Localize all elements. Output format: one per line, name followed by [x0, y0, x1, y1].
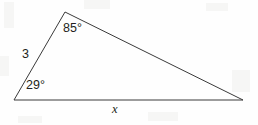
- angle-label-apex: 85°: [63, 22, 82, 35]
- geometry-figure: 85° 29° 3 x: [0, 0, 258, 125]
- triangle-shape: [0, 0, 258, 125]
- triangle-outline: [14, 12, 243, 100]
- side-label-left: 3: [22, 48, 29, 61]
- angle-label-left: 29°: [26, 79, 45, 92]
- side-label-base-x: x: [112, 103, 118, 116]
